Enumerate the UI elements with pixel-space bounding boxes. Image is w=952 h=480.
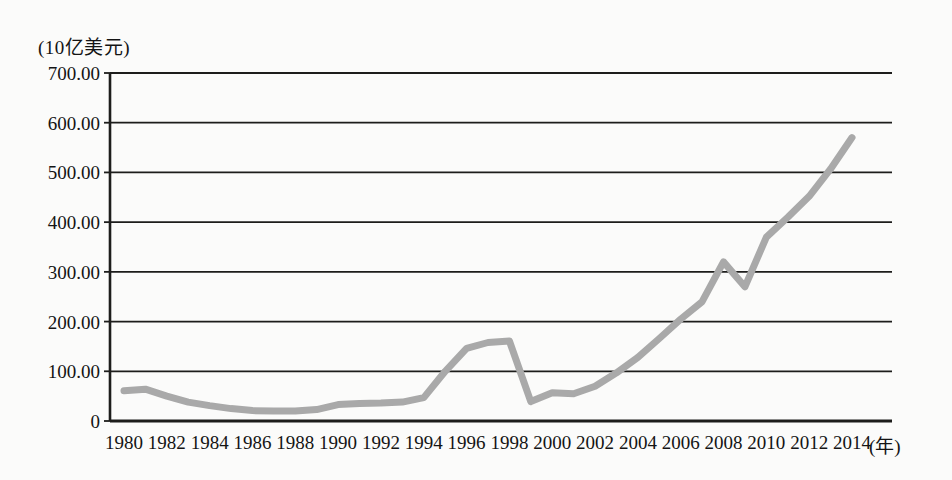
x-axis-label-1990: 1990 [319, 432, 357, 453]
x-axis-label-2004: 2004 [619, 432, 658, 453]
x-axis-label-2012: 2012 [790, 432, 828, 453]
y-axis-label-500: 500.00 [48, 162, 100, 183]
y-axis-label-0: 0 [91, 411, 101, 432]
x-axis-label-2010: 2010 [747, 432, 785, 453]
x-axis-label-1998: 1998 [490, 432, 528, 453]
x-axis-label-1982: 1982 [148, 432, 186, 453]
x-axis-label-1996: 1996 [448, 432, 486, 453]
x-axis-label-1988: 1988 [276, 432, 314, 453]
line-chart-figure: (10亿美元) 0100.00200.00300.00400.00500.006… [0, 0, 952, 480]
line-chart: 0100.00200.00300.00400.00500.00600.00700… [0, 0, 952, 480]
y-axis-label-400: 400.00 [48, 212, 100, 233]
x-axis-label-1984: 1984 [191, 432, 230, 453]
x-axis-year-label: (年) [869, 431, 901, 458]
y-axis-label-100: 100.00 [48, 361, 100, 382]
x-axis-label-2008: 2008 [705, 432, 743, 453]
x-axis-label-2002: 2002 [576, 432, 614, 453]
x-axis-label-1980: 1980 [105, 432, 143, 453]
x-axis-label-1994: 1994 [405, 432, 444, 453]
y-axis-label-600: 600.00 [48, 113, 100, 134]
y-axis-label-200: 200.00 [48, 312, 100, 333]
y-axis-label-700: 700.00 [48, 63, 100, 84]
data-series-line [124, 138, 852, 412]
x-axis-label-2014: 2014 [833, 432, 872, 453]
x-axis-label-2000: 2000 [533, 432, 571, 453]
x-axis-label-1986: 1986 [233, 432, 271, 453]
y-axis-label-300: 300.00 [48, 262, 100, 283]
x-axis-label-2006: 2006 [662, 432, 700, 453]
x-axis-label-1992: 1992 [362, 432, 400, 453]
